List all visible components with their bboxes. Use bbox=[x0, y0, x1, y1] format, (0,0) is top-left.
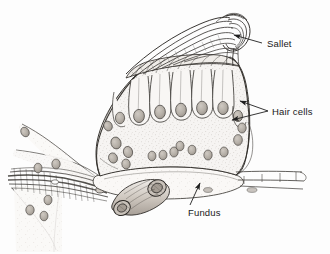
label-sallet: Sallet bbox=[267, 38, 292, 49]
label-fundus: Fundus bbox=[188, 207, 221, 218]
anatomical-diagram: Sallet Hair cells Fundus bbox=[0, 0, 330, 254]
label-hair-cells: Hair cells bbox=[272, 106, 313, 117]
